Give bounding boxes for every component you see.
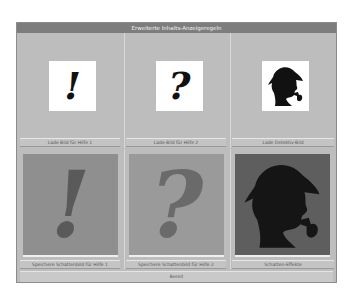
status-text: Bereit — [170, 274, 183, 279]
status-bar: Bereit — [20, 271, 333, 282]
exclamation-icon: ! — [50, 159, 90, 251]
window-title: Erweiterte Inhalts-Anzeigeregeln — [132, 25, 222, 31]
shadow-effects-button[interactable]: Schatten-Effekte — [232, 260, 334, 269]
icon-preview-2: ? — [156, 61, 203, 111]
detective-icon — [267, 65, 305, 107]
top-cell-3 — [230, 33, 336, 148]
question-icon: ? — [150, 159, 204, 251]
title-bar: Erweiterte Inhalts-Anzeigeregeln — [17, 23, 336, 33]
detective-icon — [242, 160, 324, 250]
load-detective-image-button[interactable]: Lade Detektiv-Bild — [232, 138, 334, 147]
save-shadow-1-button[interactable]: Speichere Schattenbild für Hilfe 1 — [20, 260, 120, 269]
question-icon: ? — [168, 67, 190, 105]
load-image-2-button[interactable]: Lade Bild für Hilfe 2 — [126, 138, 226, 147]
shadow-preview-3 — [235, 154, 330, 257]
icon-preview-3 — [262, 61, 309, 111]
column-divider — [124, 149, 125, 269]
shadow-preview-1: ! — [23, 154, 118, 257]
top-cell-2: ? — [124, 33, 230, 148]
icon-preview-1: ! — [49, 61, 96, 111]
save-shadow-2-button[interactable]: Speichere Schattenbild für Hilfe 2 — [126, 260, 226, 269]
exclamation-icon: ! — [64, 67, 81, 105]
load-image-1-button[interactable]: Lade Bild für Hilfe 1 — [20, 138, 120, 147]
shadow-preview-2: ? — [129, 154, 224, 257]
app-window: Erweiterte Inhalts-Anzeigeregeln ! ? Lad… — [16, 22, 337, 283]
column-divider — [230, 149, 231, 269]
top-cell-1: ! — [18, 33, 123, 148]
